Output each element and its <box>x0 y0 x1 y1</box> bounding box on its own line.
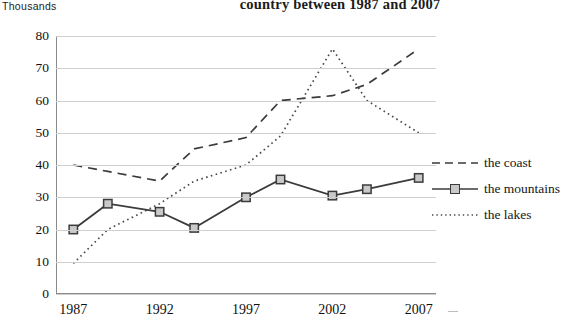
solid-square-line-key <box>432 182 478 196</box>
square-marker-icon <box>450 184 460 194</box>
gridline <box>56 230 436 231</box>
gridline <box>56 101 436 102</box>
data-point-marker <box>363 185 371 193</box>
x-tick-label: 1987 <box>59 302 87 318</box>
data-point-marker <box>155 208 163 216</box>
gridline <box>56 36 436 37</box>
x-tick-label: 1997 <box>232 302 260 318</box>
legend: the coast the mountains the lakes <box>432 150 568 228</box>
gridline <box>56 68 436 69</box>
data-point-marker <box>104 200 112 208</box>
y-tick-label: 40 <box>36 157 50 173</box>
data-point-marker <box>328 191 336 199</box>
y-tick-label: 80 <box>36 28 50 44</box>
legend-item-the-coast[interactable]: the coast <box>432 150 568 176</box>
data-point-marker <box>276 175 284 183</box>
x-tick-label: 2002 <box>318 302 346 318</box>
legend-label-the-coast: the coast <box>484 155 532 171</box>
legend-item-the-lakes[interactable]: the lakes <box>432 202 568 228</box>
legend-item-the-mountains[interactable]: the mountains <box>432 176 568 202</box>
y-axis-caption: Thousands <box>2 0 57 12</box>
x-tick-label: 1992 <box>146 302 174 318</box>
dashed-line-key <box>432 156 478 170</box>
y-tick-label: 50 <box>36 125 50 141</box>
y-tick-label: 30 <box>36 189 50 205</box>
gridline <box>56 294 436 295</box>
gridline <box>56 165 436 166</box>
y-tick-label: 10 <box>36 254 50 270</box>
gridline <box>56 197 436 198</box>
series-line-the-lakes <box>73 49 418 264</box>
y-tick-label: 70 <box>36 60 50 76</box>
gridline <box>56 262 436 263</box>
line-chart: country between 1987 and 2007 Thousands … <box>0 0 572 334</box>
plot-area: 01020304050607080 19871992199720022007 <box>56 36 436 294</box>
legend-label-the-mountains: the mountains <box>484 181 560 197</box>
chart-title: country between 1987 and 2007 <box>190 0 490 13</box>
legend-label-the-lakes: the lakes <box>484 207 532 223</box>
y-tick-label: 60 <box>36 93 50 109</box>
data-point-marker <box>415 174 423 182</box>
dotted-line-key <box>432 208 478 222</box>
y-tick-label: 0 <box>42 286 49 302</box>
gridline <box>56 133 436 134</box>
axis-tail-mark <box>448 311 458 312</box>
data-point-marker <box>190 224 198 232</box>
y-tick-label: 20 <box>36 222 50 238</box>
x-tick-label: 2007 <box>405 302 433 318</box>
